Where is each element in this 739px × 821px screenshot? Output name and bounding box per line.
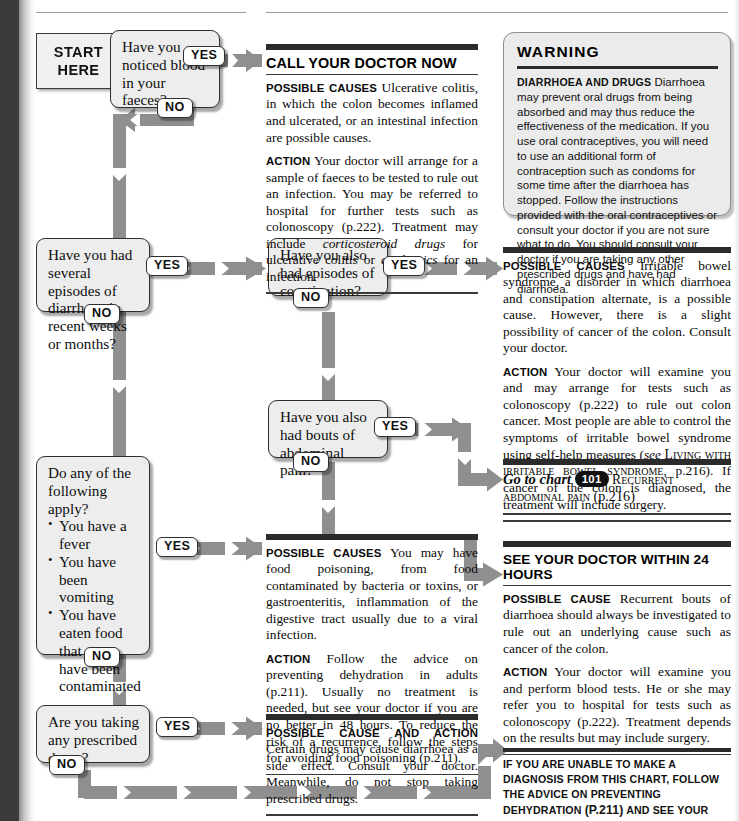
action-paragraph: Action Your doctor will arrange for a sa… — [266, 153, 478, 285]
section-title: SEE YOUR DOCTOR WITHIN 24 HOURS — [503, 552, 731, 582]
question-box-blood-in-faeces[interactable]: Have you noticed blood in your faeces? — [110, 30, 220, 108]
question-box-several-episodes[interactable]: Have you had several episodes of diarrho… — [36, 238, 150, 312]
possible-cause-paragraph: Possible cause Recurrent bouts of diarrh… — [503, 591, 731, 657]
content-go-to-chart[interactable]: Go to chart 101 Recurrent abdominal pain… — [503, 459, 731, 515]
content-see-doctor-24-hours: SEE YOUR DOCTOR WITHIN 24 HOURS Possible… — [503, 541, 731, 755]
possible-cause-label: Possible cause — [503, 593, 611, 605]
q1-no-tag[interactable]: NO — [157, 98, 193, 118]
section-top-bar — [266, 714, 478, 720]
q6-yes-tag[interactable]: YES — [156, 717, 198, 737]
q1-yes-tag[interactable]: YES — [183, 46, 225, 66]
section-top-bar — [503, 247, 731, 253]
content-chart-footnote: If you are unable to make a diagnosis fr… — [503, 748, 731, 821]
warning-rule — [517, 66, 718, 69]
q5-yes-tag[interactable]: YES — [156, 537, 198, 557]
question-text: Do any of the following apply? — [48, 464, 140, 517]
possible-cause-and-action-label: Possible cause and action — [266, 727, 478, 739]
action-label: Action — [503, 366, 547, 378]
content-call-your-doctor-now: CALL YOUR DOCTOR NOW Possible causes Ulc… — [266, 44, 478, 294]
bullet-fever: You have a fever — [48, 517, 140, 553]
section-bottom-rule — [266, 814, 478, 816]
possible-causes-label: Possible causes — [503, 260, 625, 272]
possible-causes-paragraph: Possible causes Irritable bowel syndrome… — [503, 258, 731, 357]
action-label: Action — [266, 653, 310, 665]
question-box-abdominal-pain[interactable]: Have you also had bouts of abdominal pai… — [268, 400, 388, 458]
action-italic-corticosteroid: corticosteroid drugs — [323, 236, 445, 251]
section-top-bar — [503, 459, 731, 465]
go-to-chart-line: Go to chart 101 Recurrent abdominal pain… — [503, 470, 731, 507]
action-label: Action — [266, 155, 310, 167]
section-bottom-rule — [503, 520, 731, 522]
go-to-chart-prefix: Go to chart — [503, 471, 571, 487]
action-label: Action — [503, 666, 547, 678]
q6-no-tag[interactable]: NO — [49, 755, 85, 775]
content-prescribed-drugs: Possible cause and action Certain drugs … — [266, 714, 478, 816]
q4-no-tag[interactable]: NO — [293, 452, 329, 472]
section-title-rule — [266, 74, 478, 75]
chart-number-badge: 101 — [575, 471, 609, 488]
q2-yes-tag[interactable]: YES — [146, 256, 188, 276]
start-label-line2: HERE — [58, 61, 100, 79]
q5-no-tag[interactable]: NO — [84, 647, 120, 667]
possible-cause-and-action-paragraph: Possible cause and action Certain drugs … — [266, 725, 478, 808]
section-top-bar — [503, 748, 731, 752]
q4-yes-tag[interactable]: YES — [374, 417, 416, 437]
start-label-line1: START — [54, 43, 103, 61]
section-top-bar — [266, 534, 478, 540]
q3-yes-tag[interactable]: YES — [383, 256, 425, 276]
possible-causes-paragraph: Possible causes You may have food poison… — [266, 545, 478, 644]
question-text: Have you had several episodes of diarrho… — [48, 246, 140, 353]
section-bottom-rule — [503, 513, 731, 515]
action-paragraph: Action Your doctor will examine you and … — [503, 664, 731, 747]
question-bullet-list: You have a fever You have been vomiting … — [48, 517, 140, 695]
section-title-rule — [503, 585, 731, 586]
possible-causes-label: Possible causes — [266, 547, 381, 559]
question-box-following-apply[interactable]: Do any of the following apply? You have … — [36, 456, 150, 655]
possible-cause-and-action-text: Certain drugs may cause diarrhoea as a s… — [266, 741, 478, 806]
possible-causes-text: Irritable bowel syndrome, a disorder in … — [503, 258, 731, 356]
possible-causes-text: You may have food poisoning, from food c… — [266, 545, 478, 643]
warning-title: WARNING — [517, 43, 718, 61]
footnote-text: If you are unable to make a diagnosis fr… — [503, 757, 731, 821]
footnote-page-ref: (p.211) — [585, 803, 624, 817]
q3-no-tag[interactable]: NO — [293, 288, 329, 308]
q2-no-tag[interactable]: NO — [84, 304, 120, 324]
section-title: CALL YOUR DOCTOR NOW — [266, 55, 478, 71]
warning-label: Diarrhoea and drugs — [517, 76, 651, 88]
chart-page: START HERE Have you noticed blood in you… — [0, 0, 739, 821]
section-top-bar — [266, 44, 478, 50]
go-to-chart-page: (p.216) — [593, 488, 634, 504]
possible-causes-label: Possible causes — [266, 82, 377, 94]
section-top-bar — [503, 541, 731, 547]
warning-box: WARNING Diarrhoea and drugs Diarrhoea ma… — [503, 32, 731, 216]
bullet-vomiting: You have been vomiting — [48, 553, 140, 606]
start-here-marker: START HERE — [36, 33, 120, 89]
possible-causes-paragraph: Possible causes Ulcerative colitis, in w… — [266, 80, 478, 146]
